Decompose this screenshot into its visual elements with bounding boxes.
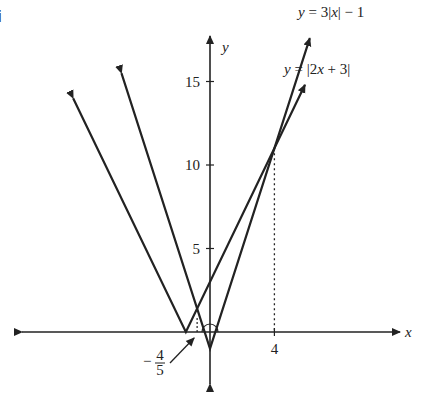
fraction-denominator: 5	[156, 362, 164, 378]
y-tick-label-5: 5	[193, 241, 201, 257]
label-part: + 3|	[324, 61, 350, 77]
series-line-2	[73, 85, 305, 332]
graph: i x y 510154 y = 3|x| − 1y = |2x + 3| −4…	[0, 0, 421, 394]
y-tick-label-10: 10	[185, 157, 200, 173]
pointer-arrow	[170, 338, 194, 363]
series-label-2: y = |2x + 3|	[282, 61, 350, 77]
label-part: = 3|	[305, 4, 331, 20]
fraction-sign: −	[143, 353, 151, 369]
y-tick-label-15: 15	[185, 74, 200, 90]
axes: x y	[22, 36, 412, 384]
label-part: = |2	[291, 61, 317, 77]
series-label-1: y = 3|x| − 1	[296, 4, 364, 20]
y-axis-label: y	[220, 39, 229, 55]
fraction-numerator: 4	[156, 347, 164, 363]
label-part: | − 1	[338, 4, 364, 20]
part-label: i	[0, 7, 2, 26]
series-group: y = 3|x| − 1y = |2x + 3|	[73, 4, 364, 349]
x-tick-label-4: 4	[271, 341, 279, 357]
label-part: y	[296, 4, 305, 20]
x-axis-label: x	[404, 324, 412, 340]
label-part: y	[282, 61, 291, 77]
series-line-1	[121, 38, 309, 349]
